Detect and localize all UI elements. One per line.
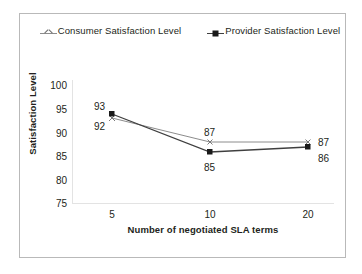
data-label-consumer-10: 87 [204, 128, 215, 138]
line-chart-figure: Consumer Satisfaction Level Provider Sat… [0, 0, 362, 274]
data-label-provider-10: 85 [204, 163, 215, 173]
series-plot [0, 0, 362, 274]
data-label-consumer-20: 87 [318, 138, 329, 148]
data-label-provider-20: 86 [318, 154, 329, 164]
data-label-consumer-5: 92 [94, 122, 105, 132]
data-label-provider-5: 93 [94, 102, 105, 112]
marker-provider-5 [109, 111, 115, 117]
marker-provider-10 [207, 149, 213, 155]
marker-provider-20 [305, 144, 311, 150]
